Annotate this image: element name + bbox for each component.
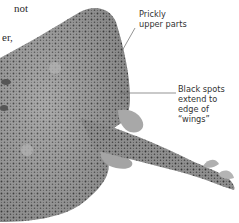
callout-line: “wings” bbox=[178, 114, 225, 124]
callout-line: Black spots bbox=[178, 84, 225, 94]
callout-prickly-upper-parts: Prickly upper parts bbox=[139, 9, 187, 29]
dorsal-fin-1 bbox=[203, 160, 219, 168]
callout-line: Prickly bbox=[139, 9, 187, 19]
callout-line: extend to bbox=[178, 94, 225, 104]
field-guide-page: not er, bbox=[0, 0, 239, 223]
eyespot-lower bbox=[21, 144, 33, 156]
callout-line: edge of bbox=[178, 104, 225, 114]
eyespot-upper bbox=[49, 62, 61, 74]
callout-black-spots: Black spots extend to edge of “wings” bbox=[178, 84, 225, 124]
callout-line: upper parts bbox=[139, 19, 187, 29]
pelvic-fin-upper bbox=[118, 109, 143, 132]
